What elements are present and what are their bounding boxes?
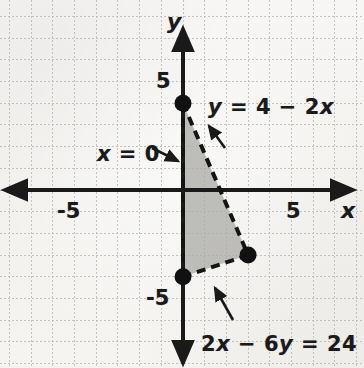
annotation-variable-y: y bbox=[279, 332, 293, 356]
y-axis-tick-label-minus-5: -5 bbox=[146, 288, 169, 309]
x-axis-tick-label-5: 5 bbox=[286, 201, 301, 222]
x-axis-name: x bbox=[341, 200, 355, 222]
vertex-point bbox=[175, 268, 192, 285]
annotation-variable-x: x bbox=[216, 332, 230, 356]
annotation-result: = 24 bbox=[293, 332, 357, 356]
leader-arrow-y-equals-4-minus-2x bbox=[209, 126, 225, 148]
annotation-label-y-equals-4-minus-2x: y = 4 − 2x bbox=[208, 97, 334, 118]
annotation-operator: = 0 bbox=[111, 142, 160, 166]
y-axis-tick-label-5: 5 bbox=[156, 71, 171, 92]
y-axis-name: y bbox=[167, 11, 181, 33]
leader-arrow-2x-minus-6y-equals-24 bbox=[215, 288, 233, 320]
annotation-variable-x: x bbox=[97, 142, 111, 166]
annotation-label-2x-minus-6y-equals-24: 2x − 6y = 24 bbox=[201, 334, 357, 355]
annotation-variable-x: x bbox=[320, 95, 334, 119]
x-axis-tick-label-minus-5: -5 bbox=[57, 201, 80, 222]
annotation-operator: = 4 − 2 bbox=[222, 95, 320, 119]
annotation-variable-y: y bbox=[208, 95, 222, 119]
annotation-label-x-equals-0: x = 0 bbox=[97, 144, 160, 165]
vertex-point bbox=[240, 247, 257, 264]
coordinate-graph-figure: y = 4 − 2x x = 0 2x − 6y = 24 5 -5 -5 5 … bbox=[0, 0, 364, 368]
annotation-coefficient: 2 bbox=[201, 332, 216, 356]
plot-canvas bbox=[0, 0, 364, 368]
vertex-point bbox=[175, 95, 192, 112]
annotation-operator: − 6 bbox=[230, 332, 279, 356]
